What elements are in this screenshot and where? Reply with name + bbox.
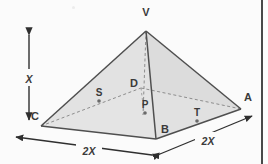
dimension-label-base-left: 2X [82, 145, 97, 157]
point-dot-s [97, 99, 101, 103]
page-border-line [261, 0, 263, 164]
point-dot-t [195, 119, 199, 123]
vertex-label-d: D [130, 77, 138, 89]
vertex-label-v: V [142, 6, 150, 18]
vertex-label-c: C [31, 110, 39, 122]
point-label-t: T [194, 107, 200, 118]
point-dot-p [143, 111, 147, 115]
pyramid-figure: V A B C D S P T X 2X 2X [0, 0, 268, 164]
vertex-label-a: A [244, 91, 252, 103]
point-label-p: P [142, 99, 149, 110]
dimension-label-base-right: 2X [201, 135, 216, 147]
page-margin [263, 0, 268, 164]
point-label-s: S [96, 87, 103, 98]
vertex-label-b: B [161, 123, 169, 135]
figure-screenshot: V A B C D S P T X 2X 2X [0, 0, 268, 164]
scan-artifact [72, 6, 75, 9]
dimension-label-height: X [24, 73, 33, 85]
